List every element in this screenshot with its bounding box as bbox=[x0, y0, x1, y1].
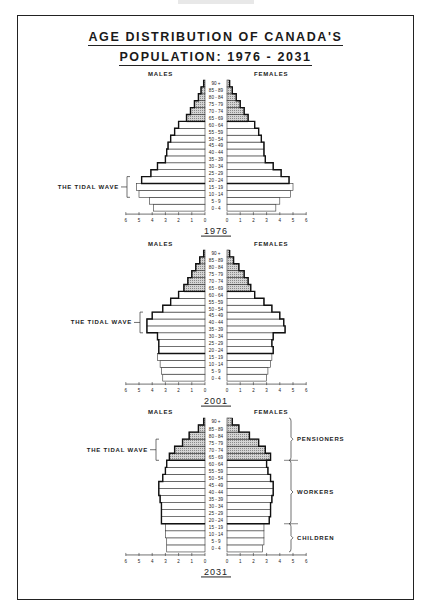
age-label: 25 - 29 bbox=[209, 511, 224, 516]
bar-female bbox=[227, 347, 273, 354]
bar-male bbox=[179, 121, 205, 128]
bar-male bbox=[163, 305, 205, 312]
tick-label: 1 bbox=[239, 218, 242, 223]
females-label: FEMALES bbox=[254, 71, 288, 77]
tick-label: 2 bbox=[252, 218, 255, 223]
bar-female bbox=[227, 264, 239, 271]
age-label: 10 - 14 bbox=[209, 532, 224, 537]
bar-female bbox=[227, 453, 271, 460]
tick-label: 4 bbox=[151, 559, 154, 564]
bar-female bbox=[227, 156, 265, 163]
bar-female bbox=[227, 446, 265, 453]
bar-male bbox=[160, 360, 205, 367]
bar-female bbox=[227, 204, 276, 211]
bar-female bbox=[227, 545, 263, 552]
bar-male bbox=[187, 115, 205, 122]
bar-female bbox=[227, 163, 273, 170]
bar-male bbox=[147, 319, 205, 326]
tidal-wave-label: THE TIDAL WAVE bbox=[58, 184, 119, 190]
bar-female bbox=[227, 257, 234, 264]
bar-female bbox=[227, 340, 272, 347]
age-label: 75 - 79 bbox=[209, 102, 224, 107]
age-label: 35 - 39 bbox=[209, 157, 224, 162]
bar-female bbox=[227, 142, 264, 149]
bar-female bbox=[227, 360, 271, 367]
tick-label: 0 bbox=[226, 559, 229, 564]
bar-female bbox=[227, 510, 271, 517]
age-label: 45 - 49 bbox=[209, 143, 224, 148]
age-label: 35 - 39 bbox=[209, 327, 224, 332]
bar-female bbox=[227, 367, 268, 374]
bar-female bbox=[227, 190, 290, 197]
bar-female bbox=[227, 285, 251, 292]
age-label: 20 - 24 bbox=[209, 518, 224, 523]
bar-female bbox=[227, 425, 239, 432]
age-label: 0 - 4 bbox=[211, 546, 221, 551]
tick-label: 2 bbox=[177, 559, 180, 564]
bar-male bbox=[188, 278, 205, 285]
bar-male bbox=[175, 446, 205, 453]
age-label: 65 - 69 bbox=[209, 286, 224, 291]
bar-male bbox=[161, 517, 205, 524]
bar-male bbox=[165, 467, 205, 474]
year-label: 2001 bbox=[204, 396, 228, 406]
workers-label: WORKERS bbox=[297, 489, 334, 495]
bar-male bbox=[152, 312, 205, 319]
age-label: 55 - 59 bbox=[209, 300, 224, 305]
bar-female bbox=[227, 115, 248, 122]
bar-female bbox=[227, 460, 267, 467]
bar-female bbox=[227, 333, 273, 340]
bar-female bbox=[227, 467, 268, 474]
tick-label: 0 bbox=[204, 388, 207, 393]
age-label: 55 - 59 bbox=[209, 469, 224, 474]
age-label: 10 - 14 bbox=[209, 362, 224, 367]
bar-female bbox=[227, 298, 264, 305]
bar-female bbox=[227, 538, 264, 545]
tick-label: 6 bbox=[125, 388, 128, 393]
bar-female bbox=[227, 278, 248, 285]
age-label: 50 - 54 bbox=[209, 137, 224, 142]
bar-male bbox=[157, 163, 205, 170]
age-label: 65 - 69 bbox=[209, 455, 224, 460]
bar-female bbox=[227, 517, 269, 524]
bar-male bbox=[192, 271, 205, 278]
bar-female bbox=[227, 101, 240, 108]
tick-label: 4 bbox=[279, 218, 282, 223]
tick-label: 3 bbox=[265, 559, 268, 564]
age-label: 15 - 19 bbox=[209, 355, 224, 360]
bar-male bbox=[183, 439, 205, 446]
tick-label: 0 bbox=[204, 559, 207, 564]
bar-male bbox=[171, 298, 205, 305]
tick-label: 5 bbox=[292, 218, 295, 223]
tick-label: 3 bbox=[265, 388, 268, 393]
tick-label: 1 bbox=[191, 388, 194, 393]
bar-female bbox=[227, 524, 264, 531]
age-label: 80 - 84 bbox=[209, 434, 224, 439]
age-label: 85 - 89 bbox=[209, 88, 224, 93]
age-label: 50 - 54 bbox=[209, 307, 224, 312]
bar-male bbox=[165, 531, 205, 538]
bar-female bbox=[227, 439, 259, 446]
age-label: 5 - 9 bbox=[211, 539, 221, 544]
age-label: 70 - 74 bbox=[209, 109, 224, 114]
bar-female bbox=[227, 135, 261, 142]
bar-male bbox=[167, 460, 205, 467]
bar-male bbox=[161, 510, 205, 517]
age-label: 90 + bbox=[211, 419, 220, 424]
tick-label: 1 bbox=[239, 559, 242, 564]
age-label: 75 - 79 bbox=[209, 272, 224, 277]
age-label: 75 - 79 bbox=[209, 441, 224, 446]
bar-male bbox=[159, 340, 205, 347]
age-label: 0 - 4 bbox=[211, 206, 221, 211]
age-label: 90 + bbox=[211, 251, 220, 256]
age-label: 85 - 89 bbox=[209, 258, 224, 263]
population-pyramids: MALESFEMALES0 - 45 - 910 - 1415 - 1920 -… bbox=[0, 0, 431, 606]
age-label: 30 - 34 bbox=[209, 504, 224, 509]
bar-female bbox=[227, 418, 232, 425]
bar-female bbox=[227, 94, 236, 101]
bar-female bbox=[227, 121, 255, 128]
age-label: 60 - 64 bbox=[209, 123, 224, 128]
age-label: 80 - 84 bbox=[209, 95, 224, 100]
bar-female bbox=[227, 197, 280, 204]
bar-female bbox=[227, 149, 264, 156]
